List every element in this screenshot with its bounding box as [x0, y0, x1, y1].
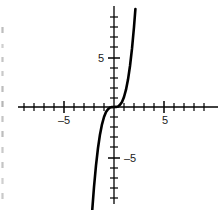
y-tick-label-pos5: 5 [98, 52, 104, 64]
x-tick-label-pos5: 5 [162, 114, 168, 126]
graph-figure: –5 5 5 –5 [0, 0, 222, 210]
y-tick-label-neg5: –5 [124, 152, 136, 164]
x-tick-label-neg5: –5 [58, 114, 70, 126]
cubic-function-plot: –5 5 5 –5 [0, 0, 222, 210]
